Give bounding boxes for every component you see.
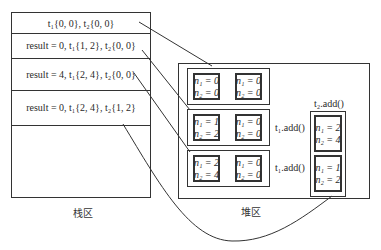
object-t2-bottom: n₁ = 1 n₂ = 2: [314, 155, 342, 192]
field-n2: n₂ = 4: [315, 134, 340, 146]
t1-add-label-2: t₁.add(): [275, 162, 305, 173]
field-n1: n₁ = 0: [194, 75, 219, 87]
object-t2-initial: n₁ = 0 n₂ = 0: [235, 73, 262, 100]
stack-frame-4-text: result = 0, t₁{2, 4}, t₂{1, 2}: [26, 102, 136, 113]
stack-frame-1: t₁{0, 0}, t₂{0, 0}: [12, 13, 150, 34]
stack-frame-4: result = 0, t₁{2, 4}, t₂{1, 2}: [12, 90, 150, 126]
field-n2: n₂ = 2: [315, 174, 340, 186]
field-n1: n₁ = 0: [236, 75, 261, 87]
t2-add-label: t₂.add(): [314, 98, 344, 109]
field-n1: n₁ = 2: [315, 122, 340, 134]
stack-frame-2: result = 0, t₁{1, 2}, t₂{0, 0}: [12, 33, 150, 59]
object-t2: n₁ = 0 n₂ = 0: [235, 155, 262, 182]
field-n1: n₁ = 1: [194, 116, 219, 128]
stack-frame-1-text: t₁{0, 0}, t₂{0, 0}: [48, 18, 115, 29]
stack-caption: 栈区: [73, 205, 93, 220]
heap-caption: 堆区: [241, 204, 261, 219]
field-n2: n₂ = 2: [194, 128, 219, 140]
object-t2: n₁ = 0 n₂ = 0: [235, 114, 262, 141]
stack-frame-3-text: result = 4, t₁{2, 4}, t₂{0, 0}: [26, 69, 136, 80]
field-n2: n₂ = 0: [236, 169, 261, 181]
stack-frame-2-text: result = 0, t₁{1, 2}, t₂{0, 0}: [26, 40, 136, 51]
heap-object-pair-2: n₁ = 1 n₂ = 2 n₁ = 0 n₂ = 0: [187, 109, 270, 146]
object-t1-initial: n₁ = 0 n₂ = 0: [193, 73, 220, 100]
field-n1: n₁ = 0: [236, 116, 261, 128]
stack-frame-3: result = 4, t₁{2, 4}, t₂{0, 0}: [12, 58, 150, 91]
field-n2: n₂ = 4: [194, 169, 219, 181]
field-n2: n₂ = 0: [236, 128, 261, 140]
object-t1-after-add: n₁ = 1 n₂ = 2: [193, 114, 220, 141]
t1-add-label-1: t₁.add(): [275, 122, 305, 133]
field-n1: n₁ = 1: [315, 162, 340, 174]
object-t2-top: n₁ = 2 n₂ = 4: [314, 115, 342, 152]
stack-area: t₁{0, 0}, t₂{0, 0} result = 0, t₁{1, 2},…: [11, 12, 151, 198]
t2-object-column: n₁ = 2 n₂ = 4 n₁ = 1 n₂ = 2: [310, 111, 346, 197]
field-n2: n₂ = 0: [194, 87, 219, 99]
heap-object-pair-1: n₁ = 0 n₂ = 0 n₁ = 0 n₂ = 0: [187, 68, 270, 105]
object-t1-after-second-add: n₁ = 2 n₂ = 4: [193, 155, 220, 182]
field-n2: n₂ = 0: [236, 87, 261, 99]
field-n1: n₁ = 0: [236, 157, 261, 169]
heap-object-pair-3: n₁ = 2 n₂ = 4 n₁ = 0 n₂ = 0: [187, 150, 270, 187]
field-n1: n₁ = 2: [194, 157, 219, 169]
heap-area: n₁ = 0 n₂ = 0 n₁ = 0 n₂ = 0 n₁ = 1 n₂ = …: [178, 63, 370, 199]
